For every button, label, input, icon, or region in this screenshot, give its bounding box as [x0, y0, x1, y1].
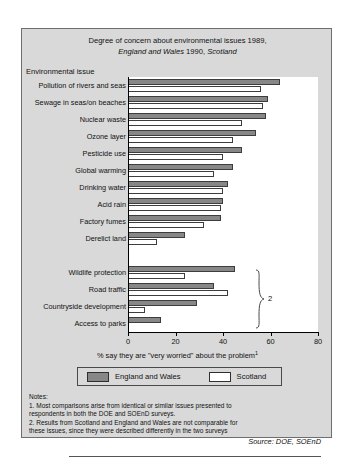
- category-label-access-to-parks: Access to parks: [74, 320, 126, 328]
- bar-england-and-wales-2: [128, 113, 266, 119]
- x-axis-title: % say they are "very worried" about the …: [22, 350, 333, 360]
- bar-scotland-13: [128, 307, 145, 313]
- bar-england-and-wales-8: [128, 215, 221, 221]
- category-label-derelict-land: Derelict land: [85, 235, 126, 243]
- note-1-line-1: 1. Most comparisons arise from identical…: [29, 402, 327, 411]
- bar-england-and-wales-0: [128, 79, 280, 85]
- bar-scotland-3: [128, 137, 233, 143]
- page-divider-rule: [69, 456, 321, 457]
- bar-england-and-wales-9: [128, 232, 185, 238]
- category-label-drinking-water: Drinking water: [79, 184, 126, 192]
- chart-figure-panel: Degree of concern about environmental is…: [21, 28, 332, 438]
- category-label-ozone-layer: Ozone layer: [87, 133, 126, 141]
- plot-area: [128, 77, 318, 332]
- chart-title-year: 1990,: [184, 47, 207, 56]
- bar-scotland-7: [128, 205, 221, 211]
- category-label-factory-fumes: Factory fumes: [80, 218, 126, 226]
- bar-scotland-2: [128, 120, 242, 126]
- chart-screenshot: Degree of concern about environmental is…: [0, 0, 359, 467]
- x-tick-60: [271, 332, 272, 336]
- bar-scotland-0: [128, 86, 261, 92]
- x-tick-label-80: 80: [314, 337, 322, 346]
- legend-label-england-and-wales: England and Wales: [115, 372, 181, 381]
- note-2-line-1: 2. Results from Scotland and England and…: [29, 419, 327, 428]
- bar-england-and-wales-5: [128, 164, 233, 170]
- note-2-line-2: these issues, since they were described …: [29, 427, 327, 436]
- bar-england-and-wales-11: [128, 266, 235, 272]
- legend-swatch-england-and-wales: [87, 372, 109, 382]
- chart-title-line1: Degree of concern about environmental is…: [88, 36, 266, 45]
- bar-scotland-1: [128, 103, 263, 109]
- x-tick-80: [318, 332, 319, 336]
- y-axis-line: [128, 77, 129, 333]
- category-label-acid-rain: Acid rain: [98, 201, 126, 209]
- category-label-nuclear-waste: Nuclear waste: [80, 116, 126, 124]
- category-label-pesticide-use: Pesticide use: [83, 150, 126, 158]
- bar-england-and-wales-4: [128, 147, 242, 153]
- category-label-pollution-of-rivers-and-seas: Pollution of rivers and seas: [38, 82, 126, 90]
- bar-england-and-wales-14: [128, 317, 161, 323]
- x-tick-20: [176, 332, 177, 336]
- bar-scotland-9: [128, 239, 157, 245]
- bar-england-and-wales-7: [128, 198, 223, 204]
- x-tick-label-60: 60: [266, 337, 274, 346]
- notes-heading: Notes:: [29, 393, 327, 402]
- x-tick-label-0: 0: [126, 337, 130, 346]
- chart-notes: Notes: 1. Most comparisons arise from id…: [29, 393, 327, 436]
- bar-scotland-11: [128, 273, 185, 279]
- x-axis-footnote-marker: 1: [255, 350, 258, 356]
- bar-england-and-wales-1: [128, 96, 268, 102]
- category-label-global-warming: Global warming: [75, 167, 126, 175]
- category-axis-header: Environmental issue: [26, 67, 94, 76]
- bar-england-and-wales-6: [128, 181, 228, 187]
- group-brace-icon: [254, 269, 266, 329]
- legend-label-scotland: Scotland: [237, 372, 267, 381]
- category-label-countryside-development: Countryside development: [43, 303, 126, 311]
- chart-title-region2: Scotland: [207, 47, 237, 56]
- x-axis-title-text: % say they are "very worried" about the …: [97, 351, 255, 360]
- note-1-line-2: respondents in both the DOE and SOEnD su…: [29, 410, 327, 419]
- chart-title: Degree of concern about environmental is…: [22, 35, 333, 57]
- x-tick-label-20: 20: [171, 337, 179, 346]
- category-label-column: Pollution of rivers and seasSewage in se…: [22, 77, 126, 332]
- bar-england-and-wales-12: [128, 283, 214, 289]
- chart-legend: England and Wales Scotland: [77, 367, 282, 386]
- group-brace-label: 2: [268, 294, 272, 303]
- category-label-road-traffic: Road traffic: [89, 286, 126, 294]
- category-label-sewage-in-seas-on-beaches: Sewage in seas/on beaches: [35, 99, 126, 107]
- bar-scotland-8: [128, 222, 204, 228]
- x-tick-0: [128, 332, 129, 336]
- chart-source: Source: DOE, SOEnD: [248, 437, 321, 446]
- x-tick-label-40: 40: [219, 337, 227, 346]
- bar-england-and-wales-3: [128, 130, 256, 136]
- chart-title-region1: England and Wales: [118, 47, 184, 56]
- bar-scotland-4: [128, 154, 223, 160]
- legend-swatch-scotland: [209, 372, 231, 382]
- bar-scotland-5: [128, 171, 214, 177]
- x-tick-40: [223, 332, 224, 336]
- category-label-wildlife-protection: Wildlife protection: [68, 269, 126, 277]
- bar-scotland-12: [128, 290, 228, 296]
- bar-england-and-wales-13: [128, 300, 197, 306]
- bar-scotland-6: [128, 188, 223, 194]
